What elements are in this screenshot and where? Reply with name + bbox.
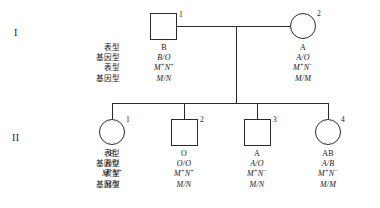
mating-line-gen1 (177, 26, 290, 27)
person-index-label: 2 (317, 10, 321, 18)
female-circle-symbol (290, 13, 316, 39)
sibship-drop-line-II-3 (257, 103, 258, 119)
sibship-drop-line-II-4 (328, 103, 329, 119)
pedigree-diagram: I 表型 基因型 表型 基因型 1 B B/O M+N+ M/N 2 A A/O… (0, 0, 380, 208)
person-I-1-data: B B/O M+N+ M/N (133, 43, 195, 84)
genotype-mn-value: M/N (133, 74, 195, 84)
person-II-4[interactable]: 4 (315, 119, 341, 145)
female-circle-symbol (315, 119, 341, 145)
row-label-genotype-blood: 基因型 (58, 53, 120, 63)
person-II-4-data: AB A/B M+N− M/M (297, 149, 359, 190)
phenotype-mn-value: M+N+ (153, 169, 215, 179)
phenotype-mn-value: M+N− (272, 63, 334, 73)
male-square-symbol (150, 13, 177, 40)
male-square-symbol (244, 119, 271, 146)
row-label-phenotype-mn: 表型 (58, 63, 120, 73)
person-II-2-data: O O/O M+N+ M/N (153, 149, 215, 190)
phenotype-mn-value: M+N− (226, 169, 288, 179)
person-index-label: 2 (200, 116, 204, 124)
generation-2-numeral: II (12, 132, 19, 143)
sibship-drop-line-II-2 (184, 103, 185, 119)
person-I-1[interactable]: 1 (150, 13, 177, 40)
phenotype-mn-value: M+N− (297, 169, 359, 179)
phenotype-blood-value: B (81, 149, 143, 159)
person-index-label: 1 (179, 11, 183, 19)
genotype-mn-value: M/N (81, 180, 143, 190)
descent-line-gen1 (236, 26, 237, 103)
female-circle-symbol (99, 119, 125, 145)
person-II-3-data: A A/O M+N− M/N (226, 149, 288, 190)
person-I-2-data: A A/O M+N− M/M (272, 43, 334, 84)
phenotype-mn-value: M+N+ (133, 63, 195, 73)
person-index-label: 1 (126, 116, 130, 124)
genotype-mn-value: M/M (272, 74, 334, 84)
generation-1-row-labels: 表型 基因型 表型 基因型 (58, 43, 120, 84)
phenotype-blood-value: A (272, 43, 334, 53)
sibship-drop-line-II-1 (112, 103, 113, 119)
person-II-3[interactable]: 3 (244, 119, 271, 146)
male-square-symbol (171, 119, 198, 146)
phenotype-mn-value: M+N+ (81, 169, 143, 179)
phenotype-blood-value: A (226, 149, 288, 159)
sibship-line-gen2 (112, 103, 329, 104)
genotype-mn-value: M/N (226, 180, 288, 190)
row-label-genotype-mn: 基因型 (58, 74, 120, 84)
genotype-mn-value: M/N (153, 180, 215, 190)
phenotype-blood-value: O (153, 149, 215, 159)
person-II-1-data: B B/O M+N+ M/N (81, 149, 143, 190)
person-I-2[interactable]: 2 (290, 13, 316, 39)
person-index-label: 4 (341, 116, 345, 124)
person-II-2[interactable]: 2 (171, 119, 198, 146)
row-label-phenotype-blood: 表型 (58, 43, 120, 53)
person-index-label: 3 (273, 116, 277, 124)
genotype-mn-value: M/M (297, 180, 359, 190)
phenotype-blood-value: AB (297, 149, 359, 159)
person-II-1[interactable]: 1 (99, 119, 125, 145)
phenotype-blood-value: B (133, 43, 195, 53)
generation-1-numeral: I (14, 27, 18, 38)
